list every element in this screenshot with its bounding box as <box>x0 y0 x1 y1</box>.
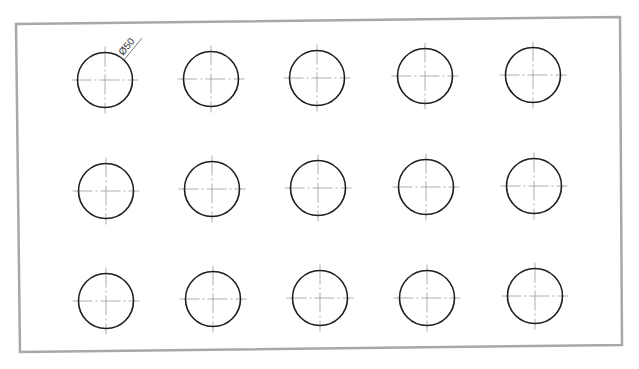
diameter-label: Ø50 <box>116 35 137 57</box>
hole <box>502 263 569 330</box>
hole <box>287 265 354 332</box>
hole <box>180 266 247 333</box>
drawing-canvas: Ø50 <box>0 0 639 369</box>
hole-pattern <box>72 42 569 335</box>
hole <box>284 45 351 112</box>
hole <box>179 156 246 223</box>
hole <box>392 43 459 110</box>
hole <box>73 268 140 335</box>
hole <box>394 265 461 332</box>
hole <box>73 158 140 225</box>
plate-outline <box>16 17 622 352</box>
hole <box>178 46 245 113</box>
hole <box>501 153 568 220</box>
hole <box>285 155 352 222</box>
hole <box>500 42 567 109</box>
hole <box>393 154 460 221</box>
hole <box>72 47 139 114</box>
